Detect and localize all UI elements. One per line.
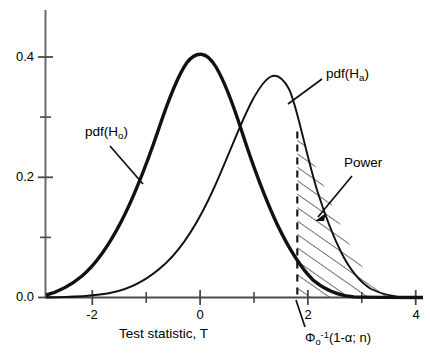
x-tick-label-4: 4 bbox=[396, 307, 430, 322]
pdf-alternative-label-suffix: ) bbox=[364, 66, 369, 81]
power-curve-chart: 0.0 0.2 0.4 -2 0 2 4 Test statistic, T p… bbox=[0, 0, 430, 361]
power-label: Power bbox=[344, 155, 382, 170]
power-region-hatch bbox=[290, 120, 430, 300]
x-axis-title: Test statistic, T bbox=[119, 326, 208, 341]
y-tick-label-0.2: 0.2 bbox=[2, 169, 34, 184]
pdf-null-label-prefix: pdf(H bbox=[85, 124, 118, 139]
pdf-null-label: pdf(Ho) bbox=[85, 124, 128, 141]
critical-value-label: Φo-1(1-α; n) bbox=[305, 330, 371, 347]
critical-value-phi: Φ bbox=[305, 330, 315, 345]
pdf-null-label-suffix: ) bbox=[123, 124, 128, 139]
critical-value-superscript: -1 bbox=[321, 330, 329, 340]
pdf-null-leader-line bbox=[110, 146, 143, 184]
pdf-alternative-label: pdf(Ha) bbox=[326, 66, 369, 83]
x-tick-label-0: 0 bbox=[180, 307, 220, 322]
y-tick-label-0.4: 0.4 bbox=[2, 49, 34, 64]
x-tick-label-minus2: -2 bbox=[72, 307, 112, 322]
pdf-alternative-leader-line bbox=[288, 79, 322, 104]
pdf-null-curve bbox=[46, 54, 423, 297]
pdf-alternative-label-prefix: pdf(H bbox=[326, 66, 359, 81]
x-tick-label-2: 2 bbox=[288, 307, 328, 322]
critical-value-args: (1-α; n) bbox=[329, 330, 371, 345]
y-tick-label-0: 0.0 bbox=[2, 289, 34, 304]
